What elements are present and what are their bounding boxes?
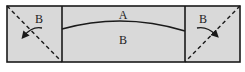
right-panel-label: B [199,12,207,26]
center-top-label: A [119,8,128,22]
center-bottom-label: B [119,33,127,47]
folding-diagram: B A B B [0,0,245,72]
left-panel-label: B [35,12,43,26]
